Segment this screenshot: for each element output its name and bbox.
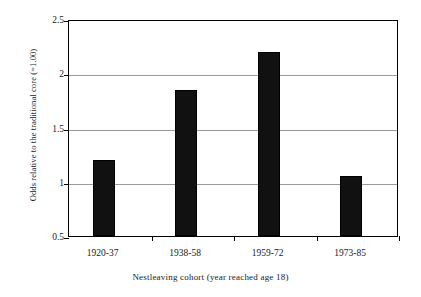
y-axis-tick-mark xyxy=(64,238,69,239)
x-axis-tick-label: 1973-85 xyxy=(334,248,366,258)
bar-chart: Odds relative to the traditional core (=… xyxy=(0,0,421,297)
y-axis-tick-label: 0.5 xyxy=(36,232,64,242)
bar[interactable] xyxy=(340,176,362,236)
bar[interactable] xyxy=(258,52,280,236)
y-axis-tick-label: 1 xyxy=(36,178,64,188)
x-axis-title: Nestleaving cohort (year reached age 18) xyxy=(0,272,421,282)
y-axis-tick-label: 2 xyxy=(36,69,64,79)
y-axis-tick-labels: 0.511.522.5 xyxy=(36,0,64,297)
bar[interactable] xyxy=(175,90,197,236)
x-axis-tick-mark xyxy=(234,236,235,241)
x-axis-tick-label: 1920-37 xyxy=(87,248,119,258)
y-axis-tick-label: 1.5 xyxy=(36,124,64,134)
y-axis-tick-mark xyxy=(64,130,69,131)
bars-layer xyxy=(69,21,397,236)
bar-slot xyxy=(152,21,235,236)
y-axis-tick-label: 2.5 xyxy=(36,15,64,25)
y-axis-tick-mark xyxy=(64,184,69,185)
bar-slot xyxy=(69,21,152,236)
y-axis-tick-mark xyxy=(64,21,69,22)
y-axis-tick-mark xyxy=(64,75,69,76)
bar-slot xyxy=(234,21,317,236)
plot-area xyxy=(68,20,398,237)
x-axis-tick-mark xyxy=(152,236,153,241)
bar[interactable] xyxy=(93,160,115,236)
x-axis-tick-labels: 1920-371938-581959-721973-85 xyxy=(68,248,398,262)
x-axis-tick-mark xyxy=(317,236,318,241)
bar-slot xyxy=(317,21,400,236)
x-axis-tick-label: 1938-58 xyxy=(169,248,201,258)
x-axis-tick-mark xyxy=(399,236,400,241)
x-axis-tick-label: 1959-72 xyxy=(252,248,284,258)
